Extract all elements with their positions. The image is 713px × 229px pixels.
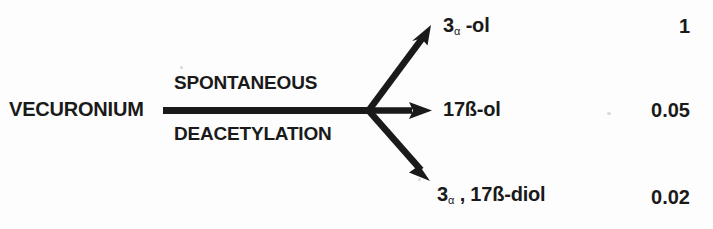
- potency-value-3-alpha-17-beta-diol: 0.02: [620, 186, 690, 209]
- arrow-line-down: [369, 111, 421, 170]
- product-label-17-beta-ol: 17ß-ol: [443, 99, 501, 119]
- potency-value-17-beta-ol: 0.05: [620, 99, 690, 122]
- product-label-3-alpha-17-beta-diol: 3α , 17ß-diol: [437, 184, 545, 204]
- product-suffix: 17ß-ol: [443, 98, 501, 120]
- arrow-line-up: [369, 36, 424, 110]
- product-label-3-alpha-ol: 3α -ol: [443, 15, 490, 35]
- potency-value-3-alpha-ol: 1: [620, 15, 690, 38]
- parent-drug-label: VECURONIUM: [9, 99, 144, 119]
- alpha-symbol: α: [454, 25, 460, 37]
- product-suffix: , 17ß-diol: [454, 183, 545, 205]
- alpha-symbol: α: [448, 194, 454, 206]
- product-suffix: -ol: [460, 14, 489, 36]
- reaction-label-deacetylation: DEACETYLATION: [174, 124, 332, 143]
- reaction-label-spontaneous: SPONTANEOUS: [174, 73, 317, 92]
- product-prefix: 3: [443, 14, 454, 36]
- arrowhead-mid: [409, 102, 432, 119]
- product-prefix: 3: [437, 183, 448, 205]
- metabolism-diagram: VECURONIUM SPONTANEOUS DEACETYLATION 3α …: [0, 0, 713, 229]
